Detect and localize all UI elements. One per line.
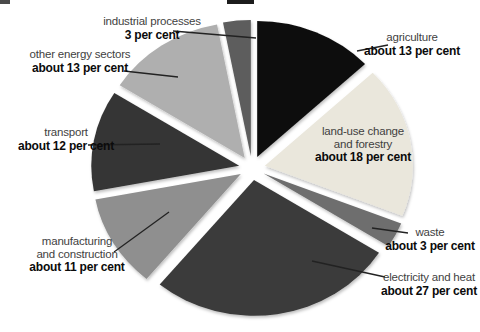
scan-artifact [227,0,254,4]
pie-slices-group [91,20,412,316]
callout-line-agriculture [357,45,388,51]
pie-chart-canvas [0,0,480,332]
scan-artifact [0,0,10,4]
emissions-pie-chart: agricultureabout 13 per centland-use cha… [0,0,480,332]
